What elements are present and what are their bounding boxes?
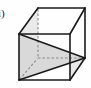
- cube-diagram: [0, 0, 91, 88]
- edge-diagonal-top-right: [70, 8, 85, 34]
- figure-container: i): [0, 0, 91, 88]
